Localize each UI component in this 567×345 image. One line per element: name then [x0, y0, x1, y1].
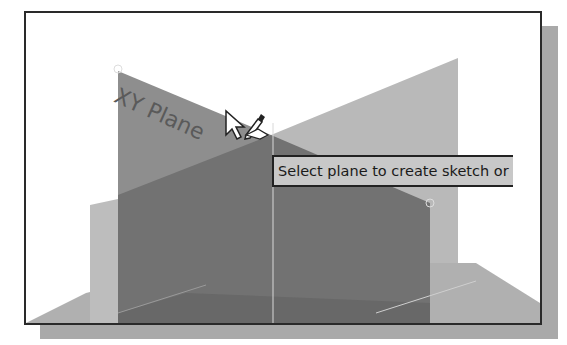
side-plane-left[interactable] — [90, 199, 118, 323]
graphics-viewport[interactable]: XY Plane Select plane to create sketch o… — [24, 11, 542, 325]
tooltip: Select plane to create sketch or — [272, 155, 513, 187]
arrow-with-pencil-cursor-icon — [224, 109, 274, 149]
